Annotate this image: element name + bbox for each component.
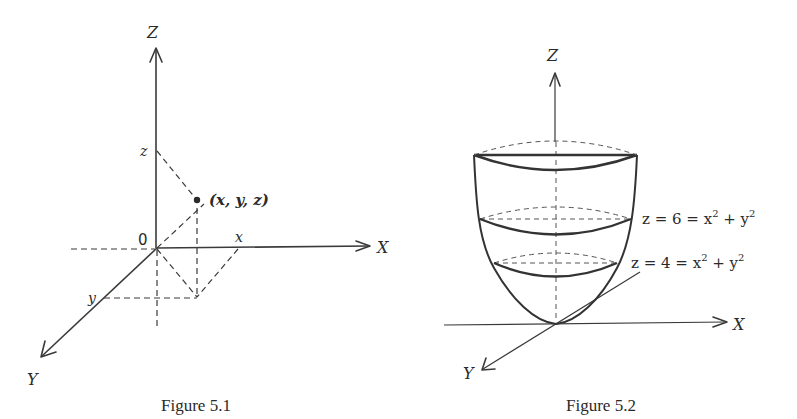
level-6-label: z = 6 = x2 + y2 bbox=[642, 208, 755, 228]
point-marker-icon bbox=[194, 197, 200, 203]
origin-to-projection-dashed bbox=[157, 249, 197, 297]
z-tick-label: z bbox=[139, 143, 148, 159]
y-axis-label: Y bbox=[27, 370, 39, 389]
figure-5-1-caption: Figure 5.1 bbox=[161, 396, 231, 415]
y-axis-2-label: Y bbox=[463, 364, 475, 383]
level-4-label: z = 4 = x2 + y2 bbox=[631, 252, 744, 272]
x-axis-label: X bbox=[375, 238, 389, 257]
z-axis-2-label: Z bbox=[546, 46, 559, 65]
x-axis bbox=[157, 246, 369, 248]
z-to-point-dashed bbox=[157, 151, 196, 199]
x-axis-2 bbox=[444, 322, 726, 325]
x-axis-2-label: X bbox=[731, 315, 745, 334]
x-tick-label: x bbox=[235, 229, 243, 245]
figures-canvas: Z X Y 0 z x y (x, y, z) Figure 5. bbox=[0, 0, 797, 419]
point-label: (x, y, z) bbox=[209, 191, 269, 209]
origin-label: 0 bbox=[138, 231, 148, 249]
figure-5-1: Z X Y 0 z x y (x, y, z) Figure 5. bbox=[27, 23, 389, 415]
figure-5-2-caption: Figure 5.2 bbox=[566, 396, 636, 415]
x-to-projection-dashed bbox=[197, 249, 238, 297]
y-tick-label: y bbox=[87, 290, 97, 306]
figure-5-2: Z X Y z = 6 = x2 + y2 z = 4 = x2 + y2 Fi… bbox=[444, 46, 755, 415]
y-axis bbox=[42, 248, 157, 356]
z-axis-label: Z bbox=[146, 23, 159, 42]
